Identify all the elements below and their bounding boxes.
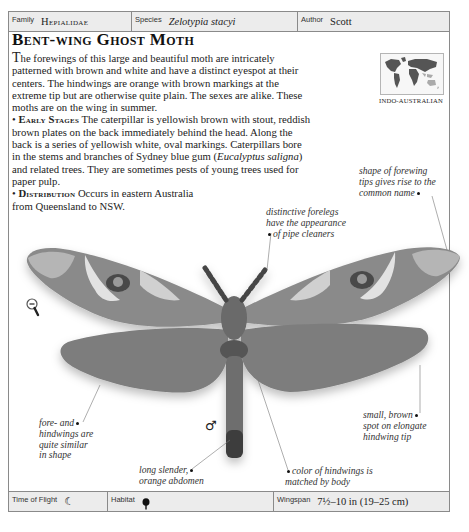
annotation-text: small, brown bbox=[363, 409, 413, 420]
annotation-text: fore- and bbox=[39, 417, 74, 428]
annotation-text: common name bbox=[359, 187, 415, 198]
annotation-text: long slender, bbox=[139, 464, 188, 475]
annotation-forewing-tips: shape of forewing tips gives rise to the… bbox=[359, 166, 459, 198]
leader-dot bbox=[190, 469, 193, 472]
annotation-hindwing-tip: small, brown spot on elongate hindwing t… bbox=[363, 410, 463, 442]
annotation-line: of pipe cleaners bbox=[266, 229, 366, 240]
annotation-hindwing-color: color of hindwings is matched by body bbox=[285, 466, 395, 488]
annotation-text: color of hindwings is bbox=[292, 465, 373, 476]
annotation-line: common name bbox=[359, 188, 459, 199]
annotation-text: of pipe cleaners bbox=[273, 228, 334, 239]
male-symbol: ♂ bbox=[205, 418, 217, 433]
zoom-out-icon[interactable] bbox=[26, 298, 40, 318]
annotation-fore-hindwings: fore- and hindwings are quite similar in… bbox=[39, 418, 119, 461]
annotation-line: in shape bbox=[39, 450, 119, 461]
annotation-line: orange abdomen bbox=[139, 476, 239, 487]
annotation-line: hindwing tip bbox=[363, 432, 463, 443]
annotation-line: matched by body bbox=[285, 477, 395, 488]
leader-dot bbox=[287, 470, 290, 473]
leader-dot bbox=[76, 422, 79, 425]
annotation-line: hindwings are bbox=[39, 429, 119, 440]
leader-dot bbox=[417, 192, 420, 195]
leader-dot bbox=[415, 414, 418, 417]
annotation-abdomen: long slender, orange abdomen bbox=[139, 465, 239, 487]
leader-dot bbox=[268, 233, 271, 236]
annotation-forelegs: distinctive forelegs have the appearance… bbox=[266, 207, 366, 239]
annotation-line: spot on elongate bbox=[363, 421, 463, 432]
